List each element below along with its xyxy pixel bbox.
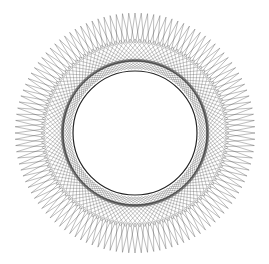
center-hole — [73, 71, 197, 195]
circular-string-art-figure — [0, 0, 269, 264]
string-art-ring — [0, 0, 269, 264]
